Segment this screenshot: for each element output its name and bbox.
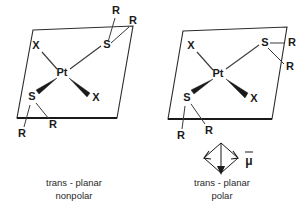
left-substituent-r2-top: R	[129, 14, 137, 26]
left-bond-s-r1-top	[108, 18, 115, 42]
left-bond-pt-x-topleft	[42, 52, 57, 69]
left-bond-pt-s-bottomleft-wedge	[36, 78, 57, 94]
structure-left: Pt X S R R S R R X trans - planar nonpol…	[17, 4, 137, 201]
right-bond-pt-s-bottomleft-wedge	[191, 79, 213, 94]
left-caption-line1: trans - planar	[46, 177, 102, 188]
chemistry-figure: Pt X S R R S R R X trans - planar nonpol…	[0, 0, 307, 213]
right-substituent-r2-top: R	[286, 60, 294, 72]
left-bond-s-r1-bottom	[24, 105, 30, 127]
dipole-moment-label: μ	[245, 154, 252, 168]
right-substituent-r1-top: R	[288, 36, 296, 48]
left-bond-s-r2-bottom	[36, 103, 49, 119]
left-ligand-x-topleft: X	[32, 39, 40, 51]
left-center-atom-pt: Pt	[57, 66, 68, 78]
right-bond-s-r1-bottom	[182, 106, 185, 129]
right-ligand-s-bottomleft: S	[183, 91, 190, 103]
left-substituent-r2-bottom: R	[49, 118, 57, 130]
left-bond-s-r2-top	[111, 27, 129, 43]
right-substituent-r1-bottom: R	[177, 129, 185, 141]
square-plane-right	[168, 27, 287, 119]
left-ligand-s-bottomleft: S	[28, 90, 35, 102]
right-substituent-r2-bottom: R	[205, 124, 213, 136]
right-ligand-x-bottomright: X	[250, 92, 258, 104]
right-center-atom-pt: Pt	[213, 67, 224, 79]
left-caption-line2: nonpolar	[56, 190, 93, 201]
right-bond-s-r2-top	[268, 48, 284, 64]
left-ligand-x-bottomright: X	[92, 91, 100, 103]
right-bond-s-r2-bottom	[191, 104, 205, 124]
right-bond-pt-x-bottomright-wedge	[226, 79, 248, 98]
dipole-diagram: μ	[204, 143, 253, 175]
right-ligand-s-topright: S	[261, 36, 268, 48]
left-bond-pt-s-topright	[70, 46, 101, 69]
left-substituent-r1-bottom: R	[18, 127, 26, 139]
right-bond-pt-x-topleft	[197, 52, 213, 70]
structure-right: Pt X S R R S R R X	[168, 27, 296, 201]
right-bond-pt-s-topright	[226, 45, 259, 69]
figure-canvas: Pt X S R R S R R X trans - planar nonpol…	[0, 0, 307, 213]
right-ligand-x-topleft: X	[187, 39, 195, 51]
right-caption-line2: polar	[211, 190, 232, 201]
left-substituent-r1-top: R	[112, 4, 120, 16]
left-ligand-s-topright: S	[103, 38, 110, 50]
left-bond-pt-x-bottomright-wedge	[69, 78, 90, 97]
right-caption-line1: trans - planar	[194, 177, 250, 188]
